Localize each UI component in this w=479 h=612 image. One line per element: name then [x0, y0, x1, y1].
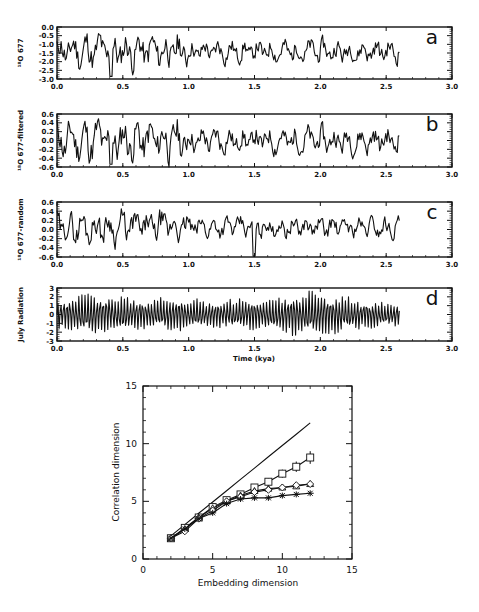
- x-tick-label: 0.0: [51, 83, 64, 91]
- x-tick-label: 2.5: [380, 171, 393, 179]
- correlation-axis-title: Correlation dimension: [111, 422, 121, 521]
- x-tick-label: 3.0: [446, 83, 459, 91]
- y-tick-label: 0.6: [42, 199, 55, 207]
- diamond-marker: [265, 486, 272, 493]
- y-tick-label: -0.2: [39, 235, 54, 243]
- y-tick-label: 1: [49, 302, 54, 310]
- y-tick-label: 0.2: [42, 217, 55, 225]
- correlation-dimension-plot: 051015051015: [126, 381, 358, 575]
- asterisk-marker: [223, 501, 230, 507]
- square-marker: [307, 454, 314, 461]
- series-line-none: [171, 423, 310, 536]
- y-tick-label: -0.4: [39, 244, 54, 252]
- y-tick-label: 0.2: [42, 128, 55, 136]
- x-tick-label: 1.0: [182, 171, 195, 179]
- asterisk-marker: [237, 496, 244, 502]
- data-line: [57, 291, 399, 336]
- x-tick-label: 3.0: [446, 261, 459, 269]
- x-tick-label: 15: [346, 565, 357, 575]
- time-axis-title: Time (kya): [233, 355, 275, 363]
- y-axis-title: ¹⁸O 677: [17, 38, 25, 67]
- y-axis-title: July Radiation: [17, 287, 25, 343]
- y-tick-label: 10: [126, 439, 138, 449]
- asterisk-marker: [307, 490, 314, 496]
- asterisk-marker: [167, 535, 174, 541]
- y-tick-label: 0: [49, 311, 54, 319]
- figure: 0.00.51.01.52.02.53.00.0-0.5-1.0-1.5-2.0…: [0, 0, 479, 612]
- asterisk-marker: [293, 491, 300, 497]
- panel-letter: d: [426, 286, 439, 310]
- x-tick-label: 3.0: [446, 345, 459, 353]
- x-tick-label: 3.0: [446, 171, 459, 179]
- x-tick-label: 2.5: [380, 83, 393, 91]
- plot-frame: [57, 202, 452, 257]
- panel-b-delta18o-filtered: 0.00.51.01.52.02.53.00.60.40.20.0-0.2-0.…: [17, 110, 458, 179]
- data-line: [57, 209, 399, 256]
- asterisk-marker: [195, 516, 202, 522]
- y-tick-label: -2.0: [39, 58, 54, 66]
- panel-letter: a: [426, 25, 438, 49]
- x-tick-label: 1.0: [182, 261, 195, 269]
- y-tick-label: 0.6: [42, 111, 55, 119]
- y-axis-title: ¹⁸O 677-random: [17, 198, 25, 260]
- asterisk-marker: [181, 526, 188, 532]
- x-tick-label: 0.0: [51, 261, 64, 269]
- y-tick-label: -0.6: [39, 164, 54, 172]
- x-tick-label: 1.5: [248, 171, 261, 179]
- data-line: [57, 119, 399, 167]
- y-tick-label: 5: [131, 496, 137, 506]
- asterisk-marker: [279, 493, 286, 499]
- x-tick-label: 1.0: [182, 345, 195, 353]
- y-tick-label: -2.5: [39, 67, 54, 75]
- panel-letter: c: [427, 200, 438, 224]
- square-marker: [265, 478, 272, 485]
- y-tick-label: 0: [131, 554, 137, 564]
- y-tick-label: 3: [49, 285, 54, 293]
- y-axis-title: ¹⁸O 677-filtered: [17, 110, 25, 171]
- y-tick-label: -1.5: [39, 50, 54, 58]
- y-tick-label: 0.0: [42, 24, 55, 32]
- x-tick-label: 2.5: [380, 261, 393, 269]
- x-tick-label: 0.5: [117, 261, 130, 269]
- x-tick-label: 0.0: [51, 345, 64, 353]
- y-tick-label: -3: [46, 338, 54, 346]
- x-tick-label: 1.5: [248, 83, 261, 91]
- x-tick-label: 0.5: [117, 83, 130, 91]
- y-tick-label: -1.0: [39, 41, 54, 49]
- panel-letter: b: [426, 112, 439, 136]
- x-tick-label: 0.0: [51, 171, 64, 179]
- y-tick-label: -0.5: [39, 32, 54, 40]
- panel-d-july-radiation: 0.00.51.01.52.02.53.03210-1-2-3July Radi…: [17, 285, 458, 354]
- x-tick-label: 1.5: [248, 345, 261, 353]
- y-tick-label: 0.4: [42, 208, 55, 216]
- y-tick-label: 15: [126, 381, 137, 391]
- y-tick-label: 0.0: [42, 137, 55, 145]
- y-tick-label: -0.6: [39, 254, 54, 262]
- asterisk-marker: [251, 495, 258, 501]
- x-tick-label: 0: [140, 565, 146, 575]
- x-tick-label: 0.5: [117, 345, 130, 353]
- embedding-axis-title: Embedding dimension: [198, 578, 299, 588]
- x-tick-label: 1.5: [248, 261, 261, 269]
- y-tick-label: 0.0: [42, 226, 55, 234]
- x-tick-label: 5: [210, 565, 216, 575]
- x-tick-label: 2.0: [314, 261, 327, 269]
- y-tick-label: -0.4: [39, 155, 54, 163]
- square-marker: [293, 463, 300, 470]
- y-tick-label: -2: [46, 329, 54, 337]
- x-tick-label: 2.5: [380, 345, 393, 353]
- y-tick-label: 2: [49, 293, 54, 301]
- asterisk-marker: [209, 510, 216, 516]
- x-tick-label: 10: [277, 565, 289, 575]
- data-line: [57, 34, 399, 77]
- y-tick-label: -0.2: [39, 146, 54, 154]
- x-tick-label: 1.0: [182, 83, 195, 91]
- x-tick-label: 2.0: [314, 83, 327, 91]
- y-tick-label: -3.0: [39, 76, 54, 84]
- y-tick-label: 0.4: [42, 119, 55, 127]
- x-tick-label: 2.0: [314, 345, 327, 353]
- panel-a-delta18o-677: 0.00.51.01.52.02.53.00.0-0.5-1.0-1.5-2.0…: [17, 24, 458, 92]
- y-tick-label: -1: [46, 320, 54, 328]
- asterisk-marker: [265, 495, 272, 501]
- x-tick-label: 2.0: [314, 171, 327, 179]
